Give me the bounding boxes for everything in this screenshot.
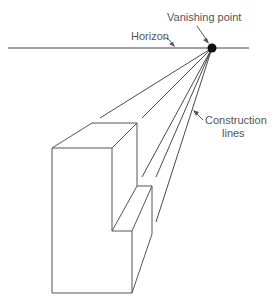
vanishing-point-arrow-icon bbox=[197, 26, 209, 44]
construction-lines-label: Construction bbox=[205, 114, 267, 126]
construction-lines-label-2: lines bbox=[222, 127, 245, 139]
perspective-diagram: Vanishing point Horizon Construction lin… bbox=[0, 0, 276, 302]
construction-lines-arrow-icon bbox=[193, 110, 203, 120]
horizon-label: Horizon bbox=[131, 30, 169, 42]
vanishing-point-label: Vanishing point bbox=[167, 11, 241, 23]
box-shape bbox=[52, 123, 152, 293]
vanishing-point-dot bbox=[208, 44, 217, 53]
construction-lines bbox=[100, 48, 212, 222]
